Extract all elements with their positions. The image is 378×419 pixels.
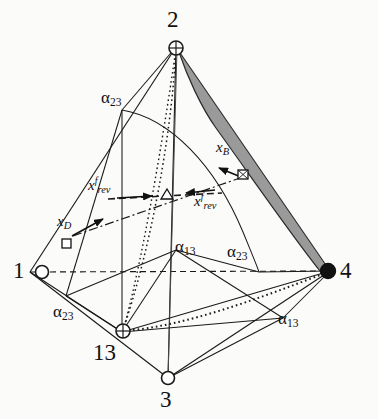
vertex-label-13: 13 [93,341,116,364]
vertex-marker-1 [36,266,49,279]
alpha-label-23-mid: α23 [227,243,247,263]
marker-feed-triangle [161,189,173,199]
x-sub: rev [203,200,216,211]
stream-label-xB: xB [216,140,229,158]
stream-label-xD: xD [57,214,71,232]
alpha-label-23-left: α23 [53,303,73,323]
alpha-label-13-mid: α13 [175,238,195,258]
alpha-label-13-bottom: α13 [278,310,298,330]
surface-edge-259 [259,271,330,272]
x-sub: B [223,146,229,157]
alpha13-internal-lines [66,250,283,332]
tetrahedron-diagram [0,0,378,419]
stream-label-xrev-right: xfrev [194,192,216,211]
x-sub: rev [97,184,110,195]
alpha-base: α [175,237,184,256]
alpha-base: α [227,242,236,261]
vertex-marker-4 [321,264,336,279]
marker-distillate-square [62,239,71,248]
alpha-base: α [101,88,110,107]
x-base: x [194,193,201,209]
vertex-marker-3 [162,372,175,385]
marker-bottoms-square [238,170,248,179]
x-base: x [57,213,64,229]
vertex-label-3: 3 [160,388,172,411]
x-sub: D [64,220,72,231]
figure-container: 2 1 4 3 13 α23 α23 α13 α23 α13 xD xB xfr… [0,0,378,419]
x-base: x [88,177,95,193]
vertex-marker-2 [169,41,183,55]
edge-3-4 [168,271,330,378]
alpha-label-23-top: α23 [101,89,121,109]
alpha-base: α [278,309,287,328]
alpha-sub: 23 [62,310,74,322]
alpha-sub: 13 [287,317,299,329]
edge-2-1 [30,47,176,272]
line-2-to-3-mid [168,48,177,378]
alpha-sub: 23 [236,250,248,262]
alpha-sub: 23 [110,96,122,108]
alpha-sub: 13 [184,245,196,257]
vertex-label-1: 1 [13,259,25,282]
vertex-label-4: 4 [340,259,352,282]
stream-label-xrev-left: xfrev [88,176,110,195]
alpha-base: α [53,302,62,321]
x-base: x [216,139,223,155]
vertex-label-2: 2 [167,8,179,31]
vertex-marker-13 [116,324,130,338]
arrow-xD [72,219,103,236]
line-1-13ext [30,272,122,332]
